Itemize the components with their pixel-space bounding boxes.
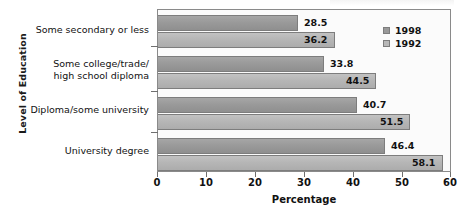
legend-swatch-icon-1992 [383, 40, 390, 47]
x-axis-tick-labels: 0 10 20 30 40 50 60 [157, 177, 451, 191]
cropped-top-edge-artifact [330, 0, 454, 6]
bar-1992-university-degree [158, 155, 443, 171]
bar-1998-some-secondary-or-less [158, 15, 298, 31]
x-axis-tick-label: 10 [199, 177, 213, 188]
value-label-1998-university-degree: 46.4 [391, 140, 414, 151]
legend-item-1998: 1998 [383, 24, 445, 37]
y-axis-tick-label: Diploma/some university [30, 104, 149, 116]
x-axis-title: Percentage [157, 194, 451, 205]
bar-1992-diploma-some-university [158, 114, 410, 130]
value-label-1998-diploma-some-university: 40.7 [363, 99, 386, 110]
y-axis-tick-mark [151, 46, 158, 47]
bar-1992-some-college-trade-high-school-diploma [158, 73, 376, 89]
bar-1998-some-college-trade-high-school-diploma [158, 56, 324, 72]
x-axis-tick-label: 60 [443, 177, 457, 188]
x-axis-tick-label: 50 [395, 177, 409, 188]
x-axis-tick-label: 20 [248, 177, 262, 188]
value-label-1992-some-secondary-or-less: 36.2 [304, 34, 327, 45]
value-label-1992-diploma-some-university: 51.5 [380, 116, 403, 127]
y-axis-tick-mark [151, 91, 158, 92]
chart-legend: 1998 1992 [383, 24, 445, 50]
y-axis-tick-label: Some college/trade/ high school diploma [53, 58, 149, 81]
y-axis-tick-label: Some secondary or less [36, 24, 149, 36]
y-axis-tick-labels: Some secondary or less Some college/trad… [0, 9, 153, 172]
y-axis-tick-label: University degree [65, 145, 149, 157]
x-axis-tick-label: 0 [154, 177, 161, 188]
x-axis-tick-label: 30 [297, 177, 311, 188]
value-label-1998-some-secondary-or-less: 28.5 [304, 17, 327, 28]
legend-item-1992: 1992 [383, 37, 445, 50]
value-label-1998-some-college-trade-high-school-diploma: 33.8 [330, 58, 353, 69]
bar-1998-diploma-some-university [158, 97, 357, 113]
x-axis-tick-label: 40 [346, 177, 360, 188]
legend-swatch-icon-1998 [383, 27, 390, 34]
bar-1998-university-degree [158, 138, 385, 154]
legend-label-1992: 1992 [395, 38, 421, 49]
y-axis-tick-mark [151, 132, 158, 133]
value-label-1992-university-degree: 58.1 [412, 157, 435, 168]
legend-label-1998: 1998 [395, 25, 421, 36]
value-label-1992-some-college-trade-high-school-diploma: 44.5 [346, 75, 369, 86]
